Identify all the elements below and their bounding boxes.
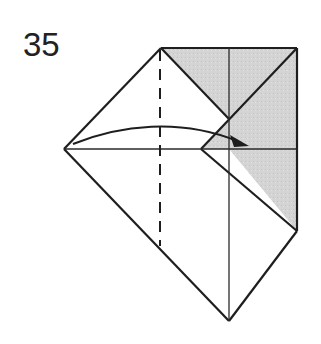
origami-diagram (0, 0, 321, 344)
